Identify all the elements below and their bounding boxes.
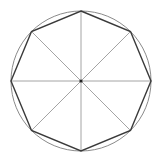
spoke-1 xyxy=(81,32,130,81)
spoke-3 xyxy=(81,81,130,130)
spoke-5 xyxy=(32,81,81,130)
spoke-7 xyxy=(32,32,81,81)
center-point xyxy=(79,79,82,82)
octagon-in-circle-diagram xyxy=(0,0,156,161)
